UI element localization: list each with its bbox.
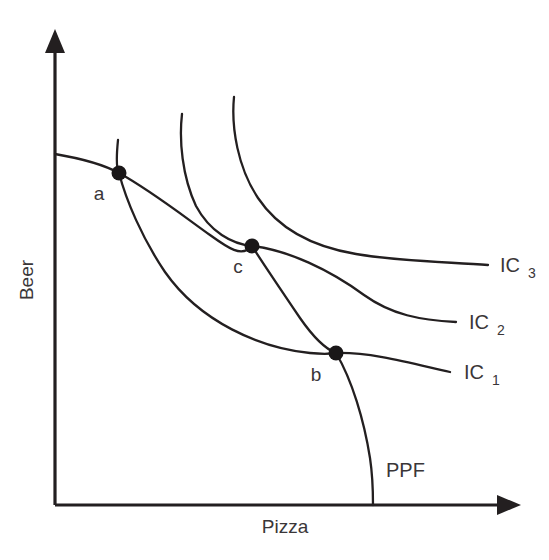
curve-ppf [55, 154, 373, 505]
y-axis-title: Beer [16, 259, 37, 300]
curve-ic3 [233, 97, 488, 265]
point-label-b: b [311, 364, 322, 385]
x-axis-arrow-icon [497, 495, 521, 515]
curve-label-ic1: IC 1 [464, 361, 500, 388]
curve-label-ic3-subscript: 3 [528, 265, 536, 281]
curve-labels-group: IC 3 IC 2 IC 1 PPF [386, 254, 536, 481]
chart-canvas: a c b IC 3 IC 2 IC 1 PPF [0, 0, 549, 560]
curve-label-ppf: PPF [386, 459, 425, 481]
point-marker-a [112, 166, 127, 181]
curve-label-ic1-base: IC [464, 361, 484, 383]
curve-label-ic3-base: IC [500, 254, 520, 276]
curve-ic1 [117, 140, 450, 372]
curve-label-ic2-base: IC [469, 311, 489, 333]
curve-label-ic1-subscript: 1 [492, 372, 500, 388]
curves-group [55, 97, 488, 505]
curve-label-ic3: IC 3 [500, 254, 536, 281]
point-label-a: a [94, 183, 105, 204]
curve-ic2 [181, 114, 456, 322]
curve-label-ic2-subscript: 2 [497, 322, 505, 338]
point-marker-c [245, 239, 260, 254]
axis-titles-group: Beer Pizza [16, 259, 309, 537]
axes-group [45, 29, 521, 515]
point-labels-group: a c b [94, 183, 322, 385]
point-label-c: c [233, 256, 243, 277]
point-marker-b [329, 346, 344, 361]
ppf-indifference-curve-diagram: a c b IC 3 IC 2 IC 1 PPF [0, 0, 549, 560]
curve-label-ic2: IC 2 [469, 311, 505, 338]
x-axis-title: Pizza [262, 516, 309, 537]
y-axis-arrow-icon [45, 29, 65, 53]
